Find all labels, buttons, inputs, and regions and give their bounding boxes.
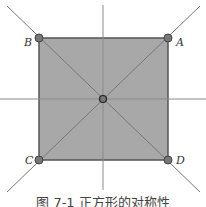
vertex-d [164, 156, 172, 164]
label-b: B [23, 36, 32, 49]
label-c: C [25, 154, 34, 167]
label-a: A [175, 36, 184, 49]
vertex-a [164, 34, 172, 42]
label-d: D [175, 154, 185, 167]
vertex-b [35, 34, 43, 42]
square-symmetry-diagram: B A C D [0, 0, 206, 207]
center-point [100, 96, 107, 103]
figure-caption: 图 7-1 正方形的对称性 [0, 192, 206, 207]
vertex-c [35, 156, 43, 164]
